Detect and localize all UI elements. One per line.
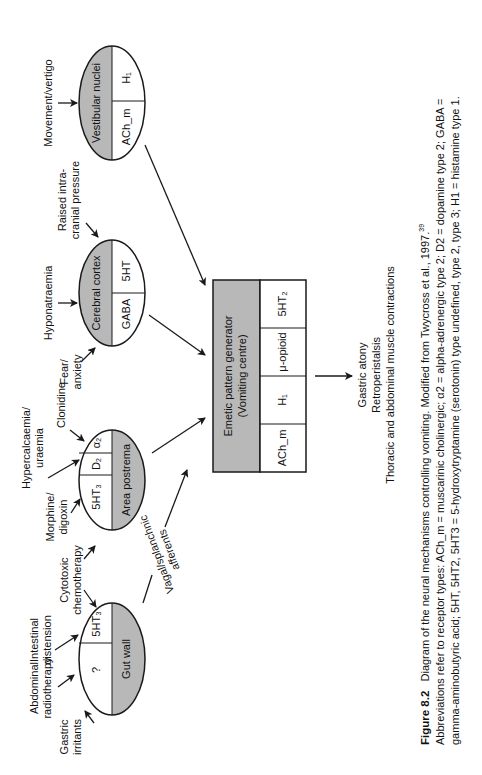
stimulus-line: uraemia [33,403,46,493]
stimulus-line: Intestinal [28,605,41,675]
vestibular-nuclei-label: Vestibular nuclei [90,51,103,155]
stimulus-movement-vertigo: Movement/vertigo [42,53,55,153]
outcome-gastric-atony: Gastric atony [355,225,369,525]
figure-stage: Gut wall ? 5HT₃ Area postrema 5HT₃ D₂ α₂… [0,0,482,775]
stimulus-line: digoxin [57,489,70,545]
receptor-d2: D₂ [90,453,103,475]
stimulus-line: Cytotoxic [58,543,71,617]
outcomes-list: Gastric atony Retroperistalsis Thoracic … [355,225,397,525]
stimulus-line: Gastric [58,707,71,767]
caption-line-1: Abbreviations refer to receptor types: A… [433,15,448,745]
caption-line-2: gamma-aminobutyric acid; 5HT, 5HT2, 5HT3… [448,15,463,745]
area-postrema-label: Area postrema [120,435,133,525]
emetic-centre-subtitle: (Vomiting centre) [236,280,249,472]
stimulus-line: Fear/ [58,347,71,397]
gut-wall-label: Gut wall [120,613,133,705]
emetic-centre-title: Emetic pattern generator [222,280,235,472]
outcome-retroperistalsis: Retroperistalsis [369,225,383,525]
stimulus-hypercalcaemia-uraemia: Hypercalcaemia/ uraemia [20,403,46,493]
figure-number: Figure 8.2 [419,691,431,745]
stimulus-fear-anxiety: Fear/ anxiety [58,347,84,397]
stimulus-line: chemotherapy [71,543,84,617]
stimulus-line: Hypercalcaemia/ [20,403,33,493]
cerebral-cortex-node [79,240,145,346]
stimulus-line: irritants [71,707,84,767]
reference-superscript: 39 [418,224,425,232]
stimulus-line: distension [41,605,54,675]
stimulus-line: anxiety [71,347,84,397]
receptor-gaba: GABA [120,293,133,335]
stimulus-line: Movement/vertigo [42,53,55,153]
receptor-5ht3-ap: 5HT₃ [90,477,103,517]
receptor-alpha2: α₂ [90,433,103,453]
receptor-unknown: ? [90,645,103,695]
caption-title-line: Figure 8.2 Diagram of the neural mechani… [414,15,433,745]
stimulus-morphine-digoxin: Morphine/ digoxin [44,489,70,545]
stimulus-line: Raised intra- [56,155,69,245]
stimulus-cytotoxic-chemotherapy: Cytotoxic chemotherapy [58,543,84,617]
stimulus-raised-icp: Raised intra- cranial pressure [56,155,82,245]
receptor-5ht: 5HT [120,249,133,293]
figure-title: Diagram of the neural mechanisms control… [419,232,431,682]
receptor-5ht3-gut: 5HT₃ [90,605,103,643]
stimulus-line: cranial pressure [69,155,82,245]
vestibular-nuclei-node [79,46,145,160]
receptor-5ht2: 5HT₂ [276,280,289,328]
receptor-h1-ec: H₁ [276,376,289,424]
cerebral-cortex-label: Cerebral cortex [90,246,103,340]
receptor-achm-vn: ACh_m [120,101,133,153]
stimulus-intestinal-distension: Intestinal distension [28,605,54,675]
stimulus-gastric-irritants: Gastric irritants [58,707,84,767]
receptor-mu-opioid: μ-opioid [276,328,289,376]
stimulus-hyponatraemia: Hyponatraemia [42,263,55,343]
receptor-h1-vn: H₁ [120,55,133,101]
stimulus-line: Hyponatraemia [42,263,55,343]
receptor-achm-ec: ACh_m [276,424,289,472]
outcome-muscle-contractions: Thoracic and abdominal muscle contractio… [383,225,397,525]
figure-caption: Figure 8.2 Diagram of the neural mechani… [414,15,463,745]
stimulus-line: Morphine/ [44,489,57,545]
